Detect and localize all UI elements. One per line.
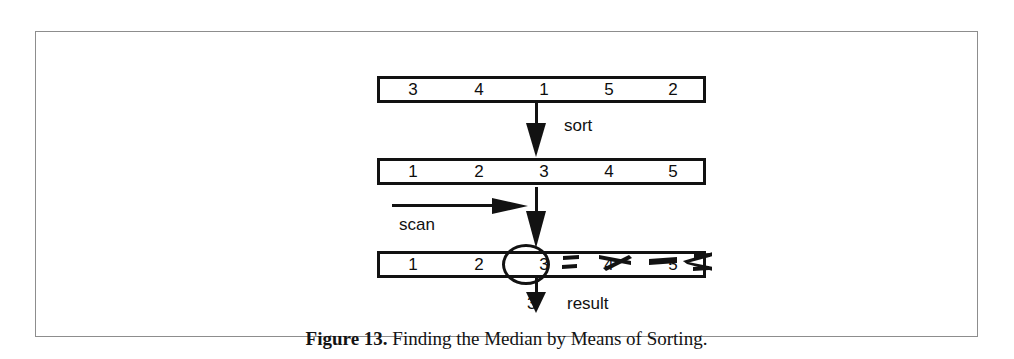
arrow-head bbox=[526, 123, 546, 157]
sort-arrow-icon bbox=[525, 103, 547, 157]
arrow-head bbox=[526, 211, 546, 248]
arrow-stem bbox=[535, 103, 538, 125]
arrow-head bbox=[492, 198, 528, 214]
scan-arrow-icon bbox=[392, 197, 528, 215]
array-cell: 2 bbox=[642, 79, 704, 100]
array-cell-struck: 4 bbox=[576, 254, 642, 275]
array-cell: 1 bbox=[382, 161, 444, 182]
scan-down-arrow-icon bbox=[525, 187, 547, 249]
sort-label: sort bbox=[564, 116, 592, 136]
result-value: 3 bbox=[527, 294, 536, 314]
array-cell: 5 bbox=[576, 79, 642, 100]
array-cell-struck: 5 bbox=[642, 254, 704, 275]
sorted-array-bar: 1 2 3 4 5 bbox=[377, 158, 706, 185]
unsorted-array-bar: 3 4 1 5 2 bbox=[377, 76, 706, 103]
figure-caption: Figure 13. Finding the Median by Means o… bbox=[36, 328, 977, 350]
array-cell: 2 bbox=[446, 254, 512, 275]
array-cell: 4 bbox=[446, 79, 512, 100]
array-cell: 2 bbox=[446, 161, 512, 182]
array-cell: 1 bbox=[382, 254, 444, 275]
array-cell: 3 bbox=[382, 79, 444, 100]
arrow-stem bbox=[392, 204, 500, 207]
result-label: result bbox=[567, 294, 609, 314]
scanned-array-bar: 1 2 3 4 5 bbox=[377, 251, 706, 278]
figure-frame: 3 4 1 5 2 sort 1 2 3 4 5 scan 1 2 3 4 5 bbox=[35, 31, 978, 337]
figure-caption-text: Finding the Median by Means of Sorting. bbox=[392, 328, 707, 349]
array-cell: 5 bbox=[642, 161, 704, 182]
scan-label: scan bbox=[399, 215, 435, 235]
array-cell-median: 3 bbox=[512, 254, 576, 275]
array-cell: 1 bbox=[512, 79, 576, 100]
figure-caption-number: Figure 13. bbox=[306, 328, 388, 349]
array-cell: 4 bbox=[576, 161, 642, 182]
arrow-stem bbox=[535, 187, 538, 213]
array-cell: 3 bbox=[512, 161, 576, 182]
